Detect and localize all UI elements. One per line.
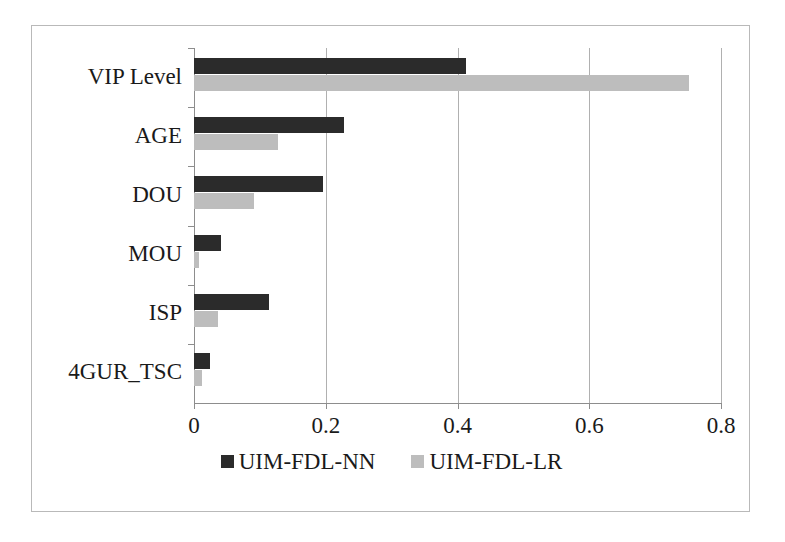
bar-row: ISP [194,285,721,344]
category-label-mou: MOU [128,242,182,265]
x-tick-0.6 [589,403,590,409]
bar-uim-fdl-lr-vip-level [194,75,689,91]
x-tick-0.4 [458,403,459,409]
legend-label: UIM-FDL-NN [239,450,376,473]
bar-uim-fdl-lr-4gur-tsc [194,370,202,386]
bar-row: DOU [194,166,721,225]
legend-entry[interactable]: UIM-FDL-NN [221,450,376,473]
x-tick-0.8 [721,403,722,409]
x-tick-0.2 [326,403,327,409]
x-tick-label: 0.2 [311,413,340,439]
plot-area: VIP LevelAGEDOUMOUISP4GUR_TSC 00.20.40.6… [194,48,721,403]
x-tick-label: 0 [188,413,200,439]
chart-figure: VIP LevelAGEDOUMOUISP4GUR_TSC 00.20.40.6… [31,25,750,512]
x-tick-0 [194,403,195,409]
category-tick [188,166,194,167]
category-label-4gur-tsc: 4GUR_TSC [68,360,182,383]
category-label-age: AGE [135,124,182,147]
category-tick [188,344,194,345]
bar-uim-fdl-nn-4gur-tsc [194,353,210,369]
category-tick [188,48,194,49]
chart-legend: UIM-FDL-NNUIM-FDL-LR [32,450,751,473]
category-label-isp: ISP [149,301,182,324]
bar-row: VIP Level [194,48,721,107]
bar-uim-fdl-nn-age [194,117,344,133]
bar-row: AGE [194,107,721,166]
legend-swatch-icon [221,455,234,468]
bar-uim-fdl-nn-vip-level [194,58,466,74]
category-label-dou: DOU [132,183,182,206]
bar-uim-fdl-lr-dou [194,193,254,209]
category-tick [188,226,194,227]
bar-uim-fdl-lr-mou [194,252,199,268]
bar-row: MOU [194,226,721,285]
bar-uim-fdl-nn-dou [194,176,323,192]
bar-uim-fdl-nn-mou [194,235,221,251]
legend-swatch-icon [411,455,424,468]
bar-row: 4GUR_TSC [194,344,721,403]
gridline-0.8 [721,48,722,403]
x-tick-label: 0.6 [575,413,604,439]
legend-entry[interactable]: UIM-FDL-LR [411,450,562,473]
bar-uim-fdl-lr-isp [194,311,218,327]
x-tick-label: 0.4 [443,413,472,439]
legend-label: UIM-FDL-LR [429,450,562,473]
category-tick [188,285,194,286]
category-tick [188,107,194,108]
category-label-vip-level: VIP Level [88,65,182,88]
bar-uim-fdl-lr-age [194,134,278,150]
bar-uim-fdl-nn-isp [194,294,269,310]
x-tick-label: 0.8 [707,413,736,439]
